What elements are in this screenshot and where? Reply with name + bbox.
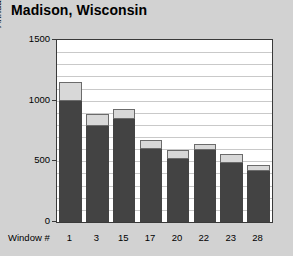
bar-segment-lower[interactable] bbox=[59, 101, 82, 222]
x-axis-tick-label: 22 bbox=[189, 232, 219, 243]
bar-group[interactable] bbox=[220, 154, 243, 222]
bar-segment-lower[interactable] bbox=[140, 149, 163, 222]
y-axis-tick-label: 500 bbox=[20, 154, 50, 165]
bar-segment-upper[interactable] bbox=[194, 144, 217, 150]
bar-group[interactable] bbox=[194, 144, 217, 222]
bar-group[interactable] bbox=[86, 114, 109, 222]
bar-group[interactable] bbox=[140, 140, 163, 223]
bar-group[interactable] bbox=[59, 82, 82, 222]
x-axis-tick-label: 17 bbox=[135, 232, 165, 243]
plot-area bbox=[56, 39, 273, 223]
x-axis-tick-label: 3 bbox=[81, 232, 111, 243]
bar-segment-lower[interactable] bbox=[86, 126, 109, 222]
x-axis-tick-label: 1 bbox=[54, 232, 84, 243]
bar-segment-lower[interactable] bbox=[167, 159, 190, 222]
bars-layer bbox=[57, 40, 272, 222]
x-axis-title: Window # bbox=[8, 232, 50, 243]
bar-segment-upper[interactable] bbox=[167, 150, 190, 158]
x-axis-tick-label: 15 bbox=[108, 232, 138, 243]
bar-segment-upper[interactable] bbox=[86, 114, 109, 126]
y-axis-tick-label: 0 bbox=[20, 215, 50, 226]
bar-segment-lower[interactable] bbox=[220, 163, 243, 222]
bar-segment-upper[interactable] bbox=[140, 140, 163, 150]
x-axis-tick-label: 28 bbox=[243, 232, 273, 243]
bar-segment-lower[interactable] bbox=[113, 119, 136, 222]
chart-page: Madison, Wisconsin Annual Heating & Cool… bbox=[0, 0, 293, 256]
x-axis-tick-label: 23 bbox=[216, 232, 246, 243]
x-axis-tick-label: 20 bbox=[162, 232, 192, 243]
y-axis-tick-label: 1500 bbox=[20, 33, 50, 44]
bar-segment-upper[interactable] bbox=[59, 82, 82, 100]
bar-segment-upper[interactable] bbox=[220, 154, 243, 162]
bar-segment-lower[interactable] bbox=[247, 171, 270, 222]
page-title: Madison, Wisconsin bbox=[11, 2, 147, 18]
y-axis-title: Annual Heating & Cooling Bill, $ bbox=[0, 0, 3, 48]
bar-segment-lower[interactable] bbox=[194, 150, 217, 222]
bar-group[interactable] bbox=[247, 165, 270, 222]
bar-segment-upper[interactable] bbox=[113, 109, 136, 119]
title-bar: Madison, Wisconsin bbox=[0, 0, 293, 22]
bar-group[interactable] bbox=[113, 109, 136, 222]
bar-segment-upper[interactable] bbox=[247, 165, 270, 171]
y-axis-tick-label: 1000 bbox=[20, 94, 50, 105]
bar-group[interactable] bbox=[167, 150, 190, 222]
